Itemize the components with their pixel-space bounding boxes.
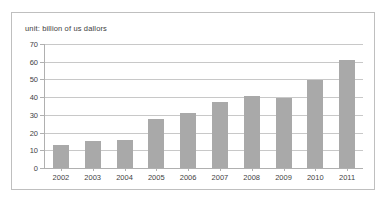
y-tick-60 (40, 62, 44, 63)
y-axis-tick-label: 60 (14, 57, 38, 66)
bar-2007 (212, 102, 228, 168)
gridline-60 (45, 62, 363, 63)
plot-area (45, 44, 363, 168)
x-axis-tick-label: 2003 (84, 173, 101, 182)
bar-2011 (339, 60, 355, 168)
bar-2002 (53, 145, 69, 168)
x-tick-2010 (315, 168, 316, 171)
bar-2010 (307, 80, 323, 168)
y-axis-tick-label: 20 (14, 128, 38, 137)
y-axis-tick-label: 0 (14, 164, 38, 173)
y-axis-tick-label: 50 (14, 75, 38, 84)
bar-2003 (85, 141, 101, 168)
x-axis-tick-label: 2002 (53, 173, 70, 182)
y-axis-tick-label: 40 (14, 93, 38, 102)
x-axis-tick-label: 2011 (339, 173, 355, 182)
x-tick-2002 (61, 168, 62, 171)
x-tick-2007 (220, 168, 221, 171)
bar-2006 (180, 113, 196, 168)
y-axis-tick-label: 30 (14, 110, 38, 119)
y-tick-40 (40, 97, 44, 98)
x-axis-tick-label: 2009 (275, 173, 292, 182)
x-axis-tick-label: 2004 (116, 173, 133, 182)
x-tick-2004 (125, 168, 126, 171)
x-tick-2005 (156, 168, 157, 171)
x-axis-tick-label: 2006 (180, 173, 197, 182)
y-axis-labels: 010203040506070 (12, 13, 38, 191)
x-tick-2006 (188, 168, 189, 171)
y-axis-tick-label: 70 (14, 40, 38, 49)
x-tick-2011 (347, 168, 348, 171)
y-tick-50 (40, 79, 44, 80)
y-tick-70 (40, 44, 44, 45)
y-tick-30 (40, 115, 44, 116)
x-axis-tick-label: 2005 (148, 173, 165, 182)
y-tick-20 (40, 133, 44, 134)
y-axis-tick-label: 10 (14, 146, 38, 155)
x-tick-2003 (93, 168, 94, 171)
bar-2008 (244, 96, 260, 168)
y-tick-0 (40, 168, 44, 169)
x-axis-tick-label: 2010 (307, 173, 324, 182)
x-tick-2008 (252, 168, 253, 171)
x-axis-tick-label: 2008 (243, 173, 260, 182)
chart-frame: unit: billion of us dallors 010203040506… (11, 12, 375, 190)
bar-2004 (117, 140, 133, 168)
bar-2005 (148, 119, 164, 168)
x-tick-2009 (284, 168, 285, 171)
bar-2009 (276, 98, 292, 168)
y-tick-10 (40, 150, 44, 151)
gridline-70 (45, 44, 363, 45)
x-axis-tick-label: 2007 (212, 173, 229, 182)
